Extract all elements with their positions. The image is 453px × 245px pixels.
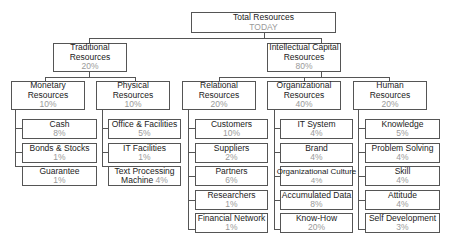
node-label: Relational Resources — [192, 81, 247, 100]
leaf-self-development: Self Development 3% — [365, 213, 440, 233]
leaf-it-system: IT System 4% — [280, 119, 353, 139]
node-physical-resources: Physical Resources 10% — [96, 81, 170, 110]
connector — [358, 229, 365, 230]
node-value: 10% — [124, 100, 141, 110]
leaf-value: 4% — [396, 200, 408, 210]
connector — [45, 77, 135, 78]
connector — [15, 152, 22, 153]
node-label: Organizational Resources — [269, 81, 339, 100]
node-intellectual-capital: Intellectual Capital Resources 80% — [267, 43, 341, 72]
connector — [358, 152, 365, 153]
leaf-problem-solving: Problem Solving 4% — [365, 143, 440, 163]
leaf-value: 4% — [310, 129, 322, 139]
rail — [102, 108, 103, 167]
leaf-value: 20% — [308, 223, 325, 233]
leaf-value: 5% — [138, 129, 150, 139]
leaf-value: 10% — [223, 129, 240, 139]
rail — [358, 108, 359, 230]
connector — [358, 128, 365, 129]
leaf-researchers: Researchers 1% — [195, 190, 268, 210]
leaf-label-2: Machine — [121, 175, 153, 185]
leaf-organizational-culture: Organizational Culture 4% — [280, 166, 353, 186]
connector — [358, 200, 365, 201]
rail — [15, 108, 16, 167]
leaf-customers: Customers 10% — [195, 119, 268, 139]
leaf-skill: Skill 4% — [365, 166, 440, 186]
leaf-value: 4% — [156, 175, 168, 185]
connector — [15, 166, 22, 167]
leaf-it-facilities: IT Facilities 1% — [108, 143, 181, 163]
leaf-value: 4% — [396, 176, 408, 186]
leaf-text-processing-machine: Text Processing Machine 4% — [108, 166, 181, 186]
rail — [188, 108, 189, 230]
node-value: 20% — [81, 62, 98, 72]
leaf-office-facilities: Office & Facilities 5% — [108, 119, 181, 139]
leaf-value: 4% — [311, 176, 323, 186]
node-organizational-resources: Organizational Resources 40% — [267, 81, 341, 110]
leaf-cash: Cash 8% — [22, 119, 97, 139]
node-value: 20% — [210, 100, 227, 110]
leaf-value: 1% — [53, 153, 65, 163]
node-traditional-resources: Traditional Resources 20% — [53, 43, 127, 72]
leaf-value: 1% — [225, 223, 237, 233]
leaf-value: 1% — [138, 153, 150, 163]
leaf-value: 3% — [396, 223, 408, 233]
node-total-resources: Total Resources TODAY — [191, 12, 336, 33]
leaf-value: 6% — [225, 176, 237, 186]
leaf-brand: Brand 4% — [280, 143, 353, 163]
connector — [188, 229, 195, 230]
node-human-resources: Human Resources 20% — [353, 81, 427, 110]
connector — [188, 128, 195, 129]
leaf-value: 4% — [396, 153, 408, 163]
leaf-bonds-stocks: Bonds & Stocks 1% — [22, 143, 97, 163]
leaf-value: 1% — [225, 200, 237, 210]
node-relational-resources: Relational Resources 20% — [182, 81, 256, 110]
node-label: Monetary Resources — [21, 81, 76, 100]
leaf-value: 1% — [53, 176, 65, 186]
leaf-value: 8% — [53, 129, 65, 139]
connector — [188, 200, 195, 201]
node-value: 20% — [381, 100, 398, 110]
connector — [89, 38, 321, 39]
connector — [188, 152, 195, 153]
leaf-value: 5% — [396, 129, 408, 139]
leaf-value: 4% — [310, 153, 322, 163]
node-label: Traditional Resources — [60, 43, 120, 62]
rail — [274, 108, 275, 230]
node-value: 10% — [39, 100, 56, 110]
connector — [358, 176, 365, 177]
node-monetary-resources: Monetary Resources 10% — [11, 81, 85, 110]
node-value: 40% — [295, 100, 312, 110]
leaf-knowledge: Knowledge 5% — [365, 119, 440, 139]
leaf-label: Organizational Culture — [277, 167, 357, 177]
leaf-value: 2% — [225, 153, 237, 163]
leaf-accumulated-data: Accumulated Data 8% — [280, 190, 353, 210]
leaf-attitude: Attitude 4% — [365, 190, 440, 210]
node-label: Intellectual Capital Resources — [268, 43, 340, 62]
connector — [15, 128, 22, 129]
leaf-suppliers: Suppliers 2% — [195, 143, 268, 163]
connector — [188, 176, 195, 177]
node-value: TODAY — [249, 23, 278, 33]
leaf-value: 8% — [310, 200, 322, 210]
leaf-guarantee: Guarantee 1% — [22, 166, 97, 186]
leaf-financial-network: Financial Network 1% — [195, 213, 268, 233]
node-label: Human Resources — [363, 81, 418, 100]
leaf-partners: Partners 6% — [195, 166, 268, 186]
leaf-know-how: Know-How 20% — [280, 213, 353, 233]
node-label: Physical Resources — [106, 81, 161, 100]
node-value: 80% — [295, 62, 312, 72]
